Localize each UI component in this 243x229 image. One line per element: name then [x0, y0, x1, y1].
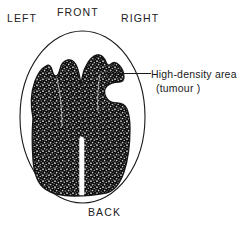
tumour-annotation: High-density area (tumour ) [151, 67, 237, 95]
orientation-label-left: LEFT [7, 13, 37, 24]
orientation-label-back: BACK [88, 207, 121, 218]
ct-scan-drawing [0, 0, 243, 229]
midline-fissure [80, 137, 84, 195]
callout-leader-line [106, 73, 151, 74]
ct-scan-figure: LEFT FRONT RIGHT BACK High-density area … [0, 0, 243, 229]
orientation-label-right: RIGHT [121, 13, 159, 24]
tumour-annotation-line1: High-density area [151, 68, 237, 80]
tumour-annotation-line2: (tumour ) [151, 81, 237, 95]
orientation-label-front: FRONT [57, 7, 99, 18]
